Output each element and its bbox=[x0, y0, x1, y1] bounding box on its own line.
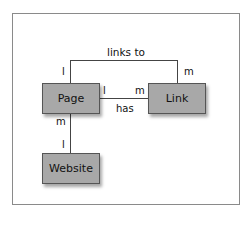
website-line bbox=[70, 114, 71, 153]
has-page-cardinality: l bbox=[103, 86, 106, 96]
website-page-cardinality: m bbox=[56, 117, 66, 127]
links-to-line-left bbox=[70, 60, 71, 83]
entity-website: Website bbox=[42, 153, 100, 184]
links-to-page-cardinality: l bbox=[62, 67, 65, 77]
entity-page: Page bbox=[42, 83, 100, 114]
entity-link: Link bbox=[148, 83, 206, 114]
links-to-link-cardinality: m bbox=[184, 67, 194, 77]
links-to-label: links to bbox=[107, 47, 145, 58]
links-to-line-right bbox=[177, 60, 178, 83]
has-label: has bbox=[116, 104, 134, 114]
has-line bbox=[100, 98, 148, 99]
website-site-cardinality: l bbox=[62, 140, 65, 150]
has-link-cardinality: m bbox=[135, 86, 145, 96]
links-to-line-top bbox=[70, 60, 178, 61]
